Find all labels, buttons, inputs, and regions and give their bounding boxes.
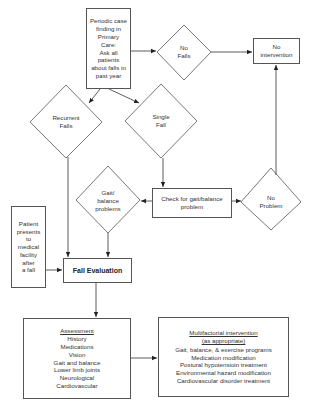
patient-line: a fall	[22, 266, 35, 274]
periodic-line: about falls in	[91, 64, 126, 72]
gait-balance-problems-label: Gait/ balance problems	[84, 187, 132, 215]
multifactorial-intervention-box: Multifactorial intervention (as appropri…	[158, 317, 289, 397]
periodic-line: past year	[96, 72, 121, 80]
periodic-line: Care:	[101, 41, 116, 49]
multifactorial-title: Multifactorial intervention	[189, 329, 257, 337]
patient-line: Patient	[19, 220, 38, 228]
assessment-item: Gait and balance	[54, 359, 101, 367]
periodic-case-finding-box: Periodic case finding in Primary Care: A…	[86, 8, 131, 89]
assessment-box: Assessment History Medications Vision Ga…	[23, 318, 131, 399]
single-fall-line: Single	[152, 113, 169, 121]
multifactorial-item: Medication modification	[191, 354, 256, 362]
no-falls-line: No	[180, 44, 188, 52]
gait-balance-line: balance	[97, 197, 119, 205]
periodic-line: Periodic case	[90, 17, 127, 25]
assessment-item: Vision	[69, 351, 86, 359]
no-problem-label: No Problem	[248, 190, 294, 214]
no-intervention-box: No intervention	[253, 38, 300, 64]
assessment-item: Neurological	[60, 374, 94, 382]
single-fall-line: Fall	[156, 121, 166, 129]
gait-balance-line: problems	[95, 205, 120, 213]
fall-evaluation-box: Fall Evaluation	[63, 258, 132, 283]
no-intervention-line: intervention	[261, 51, 293, 59]
no-falls-label: No Falls	[162, 40, 206, 64]
periodic-line: Ask all	[99, 49, 117, 57]
gait-balance-line: Gait/	[101, 189, 114, 197]
recurrent-falls-line: Recurrent	[52, 114, 79, 122]
patient-line: medical	[18, 243, 39, 251]
multifactorial-item: Gait, balance, & exercise programs	[175, 346, 272, 354]
edge-periodic-to-single	[109, 89, 139, 103]
assessment-item: Lower limb joints	[54, 366, 100, 374]
multifactorial-item: Cardiovascular disorder treatment	[177, 377, 270, 385]
no-falls-line: Falls	[177, 52, 190, 60]
check-gait-line: Check for gait/balance	[161, 195, 223, 203]
check-gait-line: problem	[181, 203, 203, 211]
assessment-item: Medications	[60, 343, 93, 351]
periodic-line: finding in	[96, 25, 121, 33]
periodic-line: Primary	[98, 33, 119, 41]
patient-presents-box: Patient presents to medical facility aft…	[11, 206, 46, 288]
periodic-line: patients	[98, 56, 120, 64]
fall-evaluation-label: Fall Evaluation	[73, 267, 122, 275]
multifactorial-item: Postural hypotensioin treatment	[180, 361, 267, 369]
multifactorial-item: Environmental hazard modification	[176, 369, 271, 377]
recurrent-falls-line: Falls	[59, 122, 72, 130]
check-gait-balance-box: Check for gait/balance problem	[152, 188, 232, 218]
assessment-item: History	[67, 335, 86, 343]
recurrent-falls-label: Recurrent Falls	[40, 110, 92, 134]
patient-line: after	[22, 259, 34, 267]
multifactorial-subtitle: (as appropriate)	[202, 337, 246, 345]
patient-line: facility	[20, 251, 37, 259]
patient-line: to	[26, 235, 31, 243]
edge-periodic-to-recurrent	[89, 89, 100, 103]
patient-line: presents	[17, 228, 41, 236]
no-intervention-line: No	[273, 43, 281, 51]
no-problem-line: No	[267, 194, 275, 202]
single-fall-label: Single Fall	[135, 109, 187, 133]
assessment-item: Cardiovascular	[56, 382, 97, 390]
no-problem-line: Problem	[259, 202, 282, 210]
assessment-title: Assessment	[60, 327, 94, 335]
